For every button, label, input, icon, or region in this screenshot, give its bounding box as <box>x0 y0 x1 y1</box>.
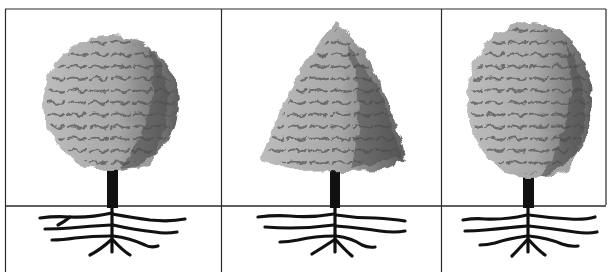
tree-shapes-figure <box>0 0 608 274</box>
roots <box>258 206 405 256</box>
roots <box>40 206 185 255</box>
conical-crown-tree <box>258 22 405 256</box>
tree-shapes-illustration <box>0 0 608 274</box>
roots <box>463 206 597 256</box>
trunk <box>330 165 340 208</box>
round-crown-tree <box>40 35 185 255</box>
oval-crown-tree <box>463 22 597 256</box>
